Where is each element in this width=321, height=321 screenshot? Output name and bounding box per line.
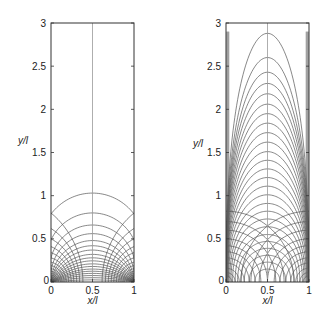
right-ytick-3: 3 — [215, 18, 221, 29]
right-panel: 3 2.5 2 1.5 1 0.5 0 0 0.5 1 x/l y/l — [192, 18, 312, 307]
left-xlabel: x/l — [87, 295, 99, 306]
right-ytick-2: 2 — [215, 104, 221, 115]
right-xtick-0: 0 — [223, 285, 229, 296]
left-ylabel: y/l — [17, 135, 29, 146]
right-xlabel: x/l — [262, 295, 274, 306]
left-ytick-3: 3 — [40, 18, 46, 29]
left-ytick-1: 1 — [40, 190, 46, 201]
left-ytick-1.5: 1.5 — [32, 147, 46, 158]
left-xtick-0: 0 — [48, 285, 54, 296]
right-ylabel: y/l — [192, 138, 204, 149]
left-ytick-0.5: 0.5 — [32, 233, 46, 244]
left-ytick-2.5: 2.5 — [32, 61, 46, 72]
right-ytick-0.5: 0.5 — [207, 233, 221, 244]
figure: 3 2.5 2 1.5 1 0.5 0 0 0.5 1 x/l y/l 3 2.… — [0, 0, 321, 321]
left-xtick-1: 1 — [131, 285, 137, 296]
left-ytick-2: 2 — [40, 104, 46, 115]
right-xtick-1: 1 — [306, 285, 312, 296]
right-ytick-1.5: 1.5 — [207, 147, 221, 158]
right-ytick-1: 1 — [215, 190, 221, 201]
right-ytick-2.5: 2.5 — [207, 61, 221, 72]
